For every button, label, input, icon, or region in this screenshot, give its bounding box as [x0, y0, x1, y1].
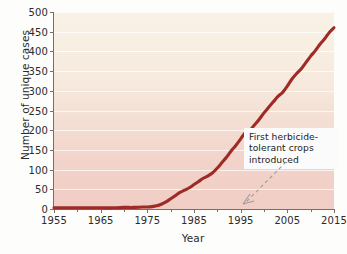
y-axis-tick-label: 500: [29, 7, 48, 18]
x-axis-tick: [334, 209, 335, 213]
y-axis-tick-label: 200: [29, 125, 48, 136]
data-series-line: [54, 12, 334, 209]
y-axis-tick-label: 350: [29, 66, 48, 77]
x-axis-tick: [101, 209, 102, 213]
x-axis-tick-label: 2015: [321, 215, 347, 226]
y-axis-tick-label: 450: [29, 26, 48, 37]
chart-figure: Number of unique cases 05010015020025030…: [0, 0, 347, 254]
x-axis-tick-label: 1965: [88, 215, 114, 226]
annotation-line-2: tolerant crops: [249, 142, 335, 153]
x-axis-tick-minor: [77, 209, 78, 212]
y-axis-tick-label: 0: [42, 204, 48, 215]
annotation-arrow-icon: [230, 160, 290, 210]
annotation-line-1: First herbicide-: [249, 131, 335, 142]
x-axis-tick-minor: [217, 209, 218, 212]
x-axis-tick: [194, 209, 195, 213]
x-axis-title: Year: [53, 232, 333, 244]
y-axis-tick-label: 400: [29, 46, 48, 57]
x-axis-tick-label: 1995: [228, 215, 254, 226]
y-axis-tick-label: 50: [35, 184, 48, 195]
series-path: [54, 28, 334, 208]
x-axis-tick-label: 2005: [274, 215, 300, 226]
y-axis-tick-label: 300: [29, 85, 48, 96]
x-axis-tick-minor: [124, 209, 125, 212]
x-axis-tick-label: 1955: [41, 215, 67, 226]
x-axis-tick-minor: [311, 209, 312, 212]
x-axis-tick: [54, 209, 55, 213]
x-axis-tick-label: 1985: [181, 215, 207, 226]
plot-area: 050100150200250300350400450500 195519651…: [53, 12, 334, 210]
x-axis-tick-label: 1975: [134, 215, 160, 226]
y-axis-tick-label: 100: [29, 164, 48, 175]
y-axis-tick-label: 250: [29, 105, 48, 116]
x-axis-tick: [147, 209, 148, 213]
y-axis-tick-label: 150: [29, 144, 48, 155]
x-axis-tick-minor: [171, 209, 172, 212]
